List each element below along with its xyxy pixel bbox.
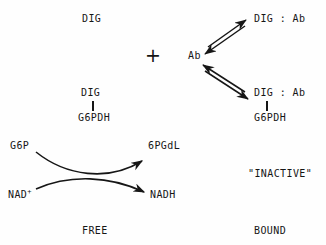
- equilibrium-bottom-reverse-arrow: [203, 65, 245, 92]
- arrow-g6p-to-6pgdl: [36, 152, 142, 174]
- double-arrow-equilibrium-icon-bottom: [203, 65, 248, 99]
- double-arrow-equilibrium-icon-top: [205, 20, 246, 54]
- reaction-diagram: DIG + Ab DIG : Ab DIG : Ab G6PDH DIG G6P…: [0, 0, 326, 245]
- equilibrium-bottom-forward-arrow: [205, 71, 248, 99]
- equilibrium-top-reverse-arrow: [205, 26, 245, 54]
- crossed-curved-arrows-icon: [36, 152, 144, 192]
- arrow-overlay: [0, 0, 326, 245]
- equilibrium-top-forward-arrow: [208, 20, 246, 47]
- arrow-nad-to-nadh: [36, 179, 144, 192]
